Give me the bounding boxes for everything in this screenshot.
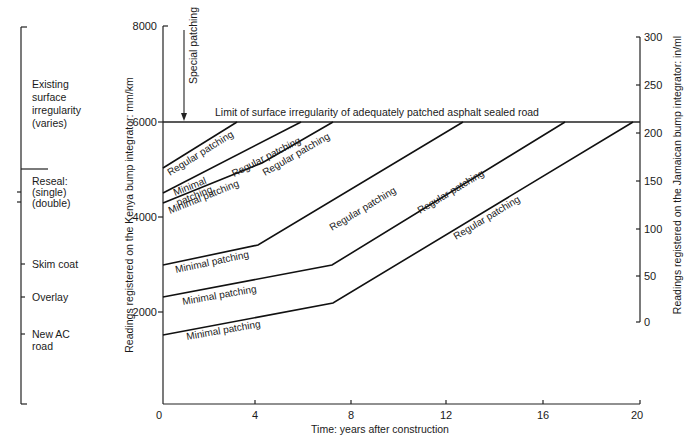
chart: Existing surface irregularity (varies) R… — [0, 0, 694, 445]
x-axis — [163, 400, 640, 404]
svg-text:4000: 4000 — [133, 211, 157, 223]
bracket-label-skim-coat: Skim coat — [32, 258, 78, 270]
svg-text:8000: 8000 — [133, 20, 157, 32]
special-patching-label: Special patching — [187, 7, 199, 84]
svg-text:12: 12 — [440, 409, 452, 421]
bracket-label-new-ac: New AC — [32, 328, 70, 340]
svg-text:irregularity: irregularity — [32, 104, 82, 116]
svg-text:Minimal patching: Minimal patching — [185, 318, 261, 342]
y-tick-labels: 8000 6000 4000 2000 — [133, 20, 157, 318]
svg-text:200: 200 — [644, 127, 662, 139]
svg-text:50: 50 — [644, 270, 656, 282]
y-axis-right — [636, 37, 640, 322]
svg-text:Regular patching: Regular patching — [327, 184, 397, 232]
svg-text:16: 16 — [537, 409, 549, 421]
y-axis-label: Readings registered on the Kenya bump in… — [123, 77, 135, 353]
svg-text:20: 20 — [631, 409, 643, 421]
line-new-ac — [163, 122, 633, 335]
y-right-tick-labels: 300 250 200 150 100 50 0 — [644, 31, 662, 328]
svg-text:Minimal patching: Minimal patching — [174, 249, 250, 275]
svg-text:300: 300 — [644, 31, 662, 43]
svg-text:Regular patching: Regular patching — [415, 167, 485, 215]
bracket-label-existing: Existing — [32, 78, 69, 90]
svg-text:8: 8 — [348, 409, 354, 421]
svg-text:6000: 6000 — [133, 116, 157, 128]
x-axis-label: Time: years after construction — [311, 423, 449, 435]
svg-text:surface: surface — [32, 91, 67, 103]
bracket-label-overlay: Overlay — [32, 291, 69, 303]
svg-text:Regular patching: Regular patching — [165, 128, 235, 177]
y-axis-right-label: Readings registered on the Jamaican bump… — [671, 36, 683, 314]
bracket-labels: Existing surface irregularity (varies) R… — [32, 78, 82, 352]
svg-text:0: 0 — [156, 409, 162, 421]
svg-text:(varies): (varies) — [32, 117, 67, 129]
svg-text:0: 0 — [644, 316, 650, 328]
x-tick-labels: 0 4 8 12 16 20 — [156, 409, 643, 421]
svg-text:road: road — [32, 340, 53, 352]
segment-labels: Regular patching Minimal patching Minima… — [165, 128, 522, 342]
svg-text:150: 150 — [644, 175, 662, 187]
svg-text:(double): (double) — [32, 197, 71, 209]
series-lines — [163, 122, 633, 335]
svg-text:Regular patching: Regular patching — [451, 193, 521, 241]
svg-text:2000: 2000 — [133, 306, 157, 318]
limit-label: Limit of surface irregularity of adequat… — [215, 106, 539, 118]
svg-text:4: 4 — [252, 409, 258, 421]
svg-text:250: 250 — [644, 79, 662, 91]
y-axis-left — [158, 26, 168, 404]
svg-text:100: 100 — [644, 223, 662, 235]
